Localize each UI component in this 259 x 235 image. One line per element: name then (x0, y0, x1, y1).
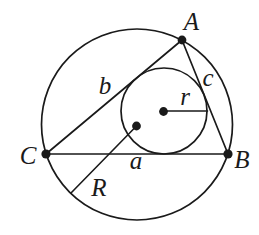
triangle-abc (46, 40, 228, 154)
label-side-a: a (130, 147, 143, 174)
label-side-c: c (202, 64, 213, 91)
label-side-b: b (99, 72, 112, 99)
triangle-incircle-circumcircle-diagram: A B C a b c r R (0, 0, 259, 235)
label-circumradius-R: R (90, 174, 106, 201)
geometry-figure: A B C a b c r R (0, 0, 259, 235)
label-vertex-b: B (234, 146, 249, 173)
label-inradius-r: r (180, 83, 190, 110)
vertex-dot-a (178, 36, 187, 45)
vertex-dot-b (223, 149, 232, 158)
circumcenter-dot (132, 122, 141, 131)
label-vertex-c: C (20, 142, 37, 169)
incenter-dot (159, 107, 168, 116)
label-vertex-a: A (182, 8, 200, 35)
vertex-dot-c (41, 149, 50, 158)
